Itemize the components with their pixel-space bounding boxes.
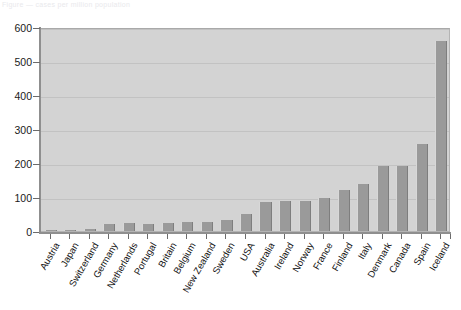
x-axis-tick — [440, 234, 441, 239]
plot-area — [40, 28, 450, 232]
y-axis-tick — [33, 62, 40, 63]
x-axis-tick — [206, 234, 207, 239]
y-axis-tick-label: 500 — [2, 57, 32, 68]
bar — [299, 201, 311, 231]
y-axis-tick-label: 600 — [2, 23, 32, 34]
x-axis-tick — [108, 234, 109, 239]
y-axis-tick-label: 300 — [2, 125, 32, 136]
x-axis-tick — [450, 234, 451, 239]
bar — [162, 223, 174, 231]
bar — [396, 166, 408, 231]
x-axis-tick — [284, 234, 285, 239]
y-axis-tick-label: 200 — [2, 159, 32, 170]
x-axis-tick — [225, 234, 226, 239]
bar — [435, 41, 447, 231]
bar — [64, 230, 76, 231]
bar — [279, 201, 291, 231]
bar — [84, 229, 96, 231]
gridline — [41, 131, 449, 132]
x-axis-category-label: Italy — [356, 241, 373, 261]
x-axis-tick — [401, 234, 402, 239]
x-axis-tick — [382, 234, 383, 239]
x-axis-tick — [343, 234, 344, 239]
bar — [416, 144, 428, 231]
x-axis-category-label: USA — [238, 241, 256, 263]
bar — [181, 222, 193, 231]
bar — [240, 214, 252, 231]
bar — [142, 224, 154, 231]
y-axis-tick-label: 0 — [2, 227, 32, 238]
y-axis-tick — [33, 28, 40, 29]
bar — [103, 224, 115, 231]
bar — [377, 166, 389, 231]
x-axis-category-label: Austria — [38, 241, 61, 271]
bar — [201, 222, 213, 231]
x-axis-tick — [128, 234, 129, 239]
x-axis-tick — [69, 234, 70, 239]
clipped-header-label: Figure — cases per million population — [0, 0, 461, 9]
x-axis-tick — [50, 234, 51, 239]
bar — [123, 223, 135, 231]
y-axis-tick-label: 100 — [2, 193, 32, 204]
gridline — [41, 63, 449, 64]
x-axis-tick — [362, 234, 363, 239]
bar — [318, 198, 330, 231]
bar-chart: Figure — cases per million population 01… — [0, 0, 461, 310]
x-axis-tick — [186, 234, 187, 239]
y-axis-tick — [33, 96, 40, 97]
clipped-header-text: Figure — cases per million population — [0, 0, 461, 9]
x-axis-tick — [245, 234, 246, 239]
x-axis-tick — [147, 234, 148, 239]
x-axis-tick — [421, 234, 422, 239]
x-axis-tick — [304, 234, 305, 239]
bar — [45, 230, 57, 231]
gridline — [41, 29, 449, 30]
x-axis-tick — [265, 234, 266, 239]
bar — [259, 202, 271, 231]
y-axis-tick — [33, 130, 40, 131]
x-axis-tick — [167, 234, 168, 239]
y-axis-tick — [33, 198, 40, 199]
bar — [338, 190, 350, 231]
bar — [357, 184, 369, 231]
x-axis-tick — [323, 234, 324, 239]
bar — [220, 220, 232, 231]
gridline — [41, 97, 449, 98]
y-axis-tick — [33, 164, 40, 165]
y-axis-tick-label: 400 — [2, 91, 32, 102]
x-axis-tick — [89, 234, 90, 239]
